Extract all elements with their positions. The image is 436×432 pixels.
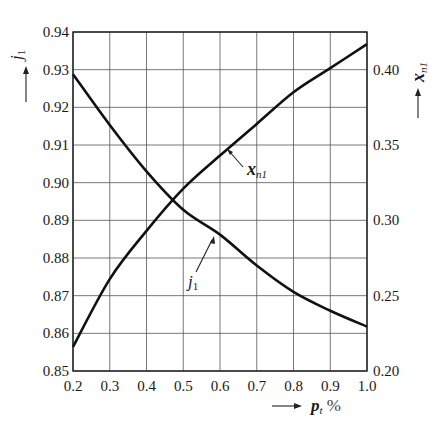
x-tick-label: 0.5 [174,378,193,394]
x-tick-label: 0.7 [247,378,266,394]
y-left-tick-label: 0.93 [43,62,69,78]
y-left-tick-label: 0.85 [43,363,69,379]
x-axis-label-text: pt % [309,396,341,416]
x-tick-label: 0.8 [284,378,303,394]
y-left-tick-label: 0.90 [43,175,69,191]
y-right-axis-ticks: 0.200.250.300.350.40 [373,62,399,379]
annotation-j1-text: j1 [186,272,198,292]
y-right-tick-label: 0.20 [373,363,399,379]
x-tick-label: 0.6 [211,378,230,394]
y-left-tick-label: 0.88 [43,250,69,266]
y-left-tick-label: 0.89 [43,212,69,228]
x-tick-label: 0.4 [137,378,156,394]
grid [73,32,367,371]
y-right-axis-label: xn1 [408,62,429,118]
annotation-j1-leader [196,240,212,272]
y-left-tick-label: 0.91 [43,137,69,153]
x-tick-label: 1.0 [358,378,377,394]
x-tick-label: 0.2 [64,378,83,394]
y-right-tick-label: 0.40 [373,62,399,78]
y-right-axis-label-text: xn1 [408,62,429,83]
y-left-tick-label: 0.92 [43,99,69,115]
annotation-j1: j1 [186,236,215,292]
x-axis-ticks: 0.20.30.40.50.60.70.80.91.0 [64,378,377,394]
y-left-tick-label: 0.87 [43,288,70,304]
annotation-j1-arrowhead-icon [210,236,215,244]
x-axis-label: pt % [272,396,341,416]
chart: 0.20.30.40.50.60.70.80.91.0 0.850.860.87… [0,0,436,432]
y-left-axis-label-text: j1 [7,50,27,62]
y-right-tick-label: 0.35 [373,137,399,153]
y-left-tick-label: 0.94 [43,24,70,40]
y-left-axis-ticks: 0.850.860.870.880.890.900.910.920.930.94 [43,24,70,379]
x-tick-label: 0.9 [321,378,340,394]
y-right-tick-label: 0.25 [373,288,399,304]
y-left-axis-label: j1 [7,50,29,102]
x-arrowhead-icon [294,403,302,409]
y-right-tick-label: 0.30 [373,212,399,228]
y-right-arrowhead-icon [415,88,421,96]
y-left-arrowhead-icon [23,66,29,74]
y-left-tick-label: 0.86 [43,325,70,341]
x-tick-label: 0.3 [100,378,119,394]
annotation-x-n1: xn1 [227,149,267,180]
